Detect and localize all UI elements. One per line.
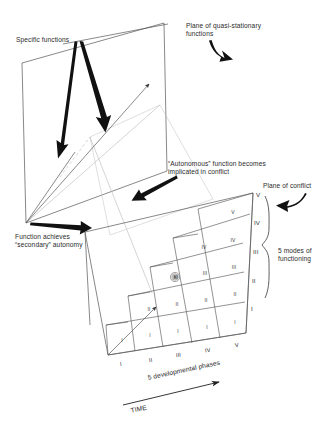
grid-cell: IV (228, 238, 238, 244)
time-axis (123, 382, 219, 405)
grid-cell: II (201, 298, 211, 304)
grid-cell: II (230, 292, 240, 298)
x-axis-tick: III (176, 352, 182, 359)
callout-secondary-autonomy: Function achieves “secondary” autonomy (15, 233, 83, 249)
grid-cell: I (145, 333, 155, 339)
thick-arrows (30, 40, 307, 235)
grid-cell: IV (199, 245, 209, 251)
x-axis-tick: I (119, 361, 122, 368)
y-axis-tick: I (251, 305, 253, 312)
x-axis-tick: V (235, 342, 240, 349)
ray-lines (26, 24, 168, 355)
construction-lines (26, 105, 213, 293)
callout-five-modes-of-functioning: 5 modes of functioning (278, 247, 312, 263)
x-axis-tick: IV (205, 347, 211, 354)
y-axis-tick: II (252, 277, 256, 284)
grid-cell: III (229, 265, 239, 271)
callout-specific-functions: Specific functions (16, 36, 69, 44)
grid-cell: III (171, 275, 181, 281)
grid-cell: I (117, 338, 127, 344)
y-axis-tick: III (253, 248, 258, 255)
callout-plane-of-conflict: Plane of conflict (263, 182, 311, 190)
grid-cell: I (202, 325, 212, 331)
callout-autonomous-implicated-in-conflict: “Autonomous” function becomes implicated… (168, 160, 266, 176)
modes-brace (262, 196, 269, 298)
grid-cell: V (228, 210, 238, 216)
y-axis-tick: V (256, 191, 260, 198)
callout-plane-quasi-stationary: Plane of quasi-stationary functions (186, 22, 261, 38)
y-axis-tick: IV (254, 219, 260, 226)
grid-cell: II (144, 307, 154, 313)
grid-cell: II (172, 302, 182, 308)
grid-cell: I (173, 329, 183, 335)
diagram-canvas: Specific functions Plane of quasi-statio… (0, 0, 336, 436)
plane-of-conflict-outline (85, 193, 253, 355)
grid-cell: III (200, 271, 210, 277)
grid-cell: I (230, 320, 240, 326)
